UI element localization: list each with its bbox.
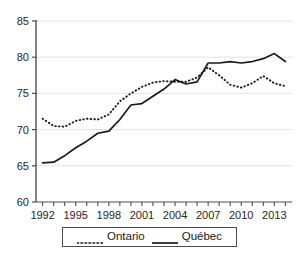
series-line-qubec: [43, 54, 286, 163]
x-tick-label: 2010: [229, 209, 253, 221]
x-tick-label: 1992: [30, 209, 54, 221]
legend-label-ontario: Ontario: [107, 231, 145, 243]
x-tick-label: 2007: [196, 209, 220, 221]
chart-legend: Ontario Québec: [62, 227, 237, 247]
x-tick-label: 1995: [63, 209, 87, 221]
legend-swatch-solid-icon: [152, 233, 178, 241]
y-tick-label: 75: [17, 87, 29, 99]
line-chart: 6065707580851992199519982001200420072010…: [0, 0, 299, 253]
series-line-ontario: [43, 67, 286, 126]
legend-swatch-dotted-icon: [77, 233, 103, 241]
legend-entry-quebec: Québec: [152, 231, 222, 243]
x-tick-label: 2013: [262, 209, 286, 221]
y-tick-label: 85: [17, 15, 29, 27]
x-tick-label: 1998: [97, 209, 121, 221]
y-tick-label: 60: [17, 196, 29, 208]
x-tick-label: 2001: [130, 209, 154, 221]
legend-label-quebec: Québec: [182, 231, 222, 243]
legend-entry-ontario: Ontario: [77, 231, 145, 243]
y-tick-label: 70: [17, 124, 29, 136]
y-tick-label: 65: [17, 160, 29, 172]
x-tick-label: 2004: [163, 209, 187, 221]
y-tick-label: 80: [17, 51, 29, 63]
chart-canvas: 6065707580851992199519982001200420072010…: [0, 0, 299, 253]
